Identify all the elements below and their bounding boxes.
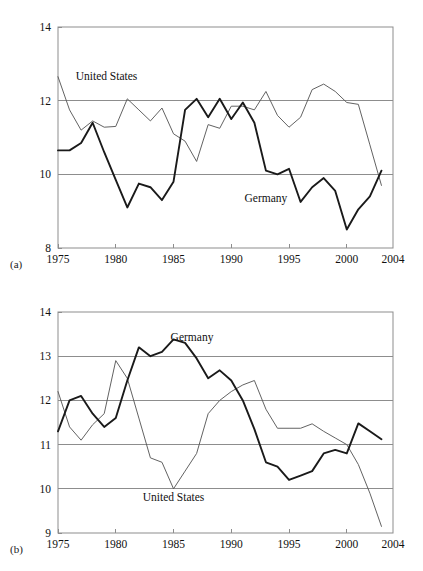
xtick-label-1985: 1985	[162, 538, 185, 550]
plot-frame	[58, 312, 393, 533]
xtick-label-2004: 2004	[382, 538, 405, 550]
series-annotation-germany: Germany	[171, 331, 214, 344]
series-line-germany	[58, 99, 381, 230]
chart-panel-b: (b) 910111213141975198019851990199520002…	[0, 285, 423, 571]
ytick-label-10: 10	[40, 483, 52, 495]
ytick-label-10: 10	[40, 168, 52, 180]
xtick-label-2000: 2000	[335, 538, 358, 550]
series-annotation-germany: Germany	[245, 192, 288, 205]
ytick-label-12: 12	[40, 95, 52, 107]
series-line-united-states	[58, 77, 381, 186]
chart-a-plot: 81012141975198019851990199520002004Unite…	[0, 0, 423, 285]
xtick-label-1975: 1975	[47, 253, 70, 265]
ytick-label-14: 14	[40, 306, 52, 318]
xtick-label-1980: 1980	[104, 538, 127, 550]
xtick-label-2004: 2004	[382, 253, 405, 265]
ytick-label-12: 12	[40, 394, 52, 406]
ytick-label-11: 11	[40, 439, 51, 451]
xtick-label-1995: 1995	[278, 253, 301, 265]
series-annotation-united-states: United States	[76, 70, 138, 82]
series-line-germany	[58, 339, 381, 480]
xtick-label-1990: 1990	[220, 538, 243, 550]
xtick-label-1995: 1995	[278, 538, 301, 550]
series-annotation-united-states: United States	[143, 491, 205, 503]
series-line-united-states	[58, 361, 381, 527]
chart-b-plot: 910111213141975198019851990199520002004G…	[0, 285, 423, 571]
ytick-label-13: 13	[40, 350, 52, 362]
xtick-label-1990: 1990	[220, 253, 243, 265]
xtick-label-1975: 1975	[47, 538, 70, 550]
chart-panel-a: (a) 81012141975198019851990199520002004U…	[0, 0, 423, 285]
xtick-label-2000: 2000	[335, 253, 358, 265]
ytick-label-14: 14	[40, 21, 52, 33]
xtick-label-1985: 1985	[162, 253, 185, 265]
xtick-label-1980: 1980	[104, 253, 127, 265]
